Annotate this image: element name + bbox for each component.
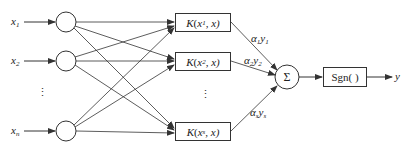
- output-label: y: [395, 71, 400, 82]
- input-subscript: 1: [16, 21, 20, 29]
- input-node-n: [56, 121, 76, 141]
- sum-symbol: Σ: [275, 65, 299, 89]
- weight-label-1: α1y1: [251, 33, 269, 46]
- kernel-box-2: K(x2, x): [175, 52, 231, 71]
- kernel-box-s: K(xs, x): [175, 122, 231, 141]
- input-nodes: [56, 12, 76, 141]
- kernel-ellipsis: ⋮: [200, 92, 211, 96]
- input-label-n: xn: [11, 125, 19, 138]
- input-subscript: n: [16, 130, 20, 138]
- input-label-1: x1: [11, 16, 19, 29]
- y-subscript: s: [263, 112, 266, 120]
- kernel-rest: , x): [206, 17, 220, 29]
- input-node-2: [56, 51, 76, 71]
- kernel-func: K: [186, 56, 193, 68]
- input-ellipsis: ⋮: [37, 90, 48, 94]
- y-subscript: 2: [258, 60, 262, 68]
- input-label-2: x2: [11, 55, 19, 68]
- kernel-rest: , x): [205, 126, 219, 138]
- sign-function-box: Sgn( ): [323, 67, 367, 87]
- kernel-func: K: [187, 126, 194, 138]
- connection-lines: [74, 22, 174, 133]
- input-subscript: 2: [16, 60, 20, 68]
- kernel-rest: , x): [206, 56, 220, 68]
- kernel-box-1: K(x1, x): [175, 13, 231, 32]
- weight-label-2: α2y2: [244, 55, 262, 68]
- weight-label-s: αsys: [250, 107, 266, 120]
- input-node-1: [56, 12, 76, 32]
- y-subscript: 1: [265, 38, 269, 46]
- kernel-func: K: [186, 17, 193, 29]
- input-arrows: [24, 22, 55, 131]
